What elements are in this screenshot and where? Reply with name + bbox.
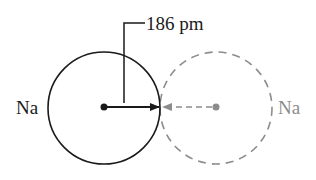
radius-label: 186 pm	[146, 13, 204, 34]
left-atom-nucleus	[101, 104, 108, 111]
left-atom-label: Na	[16, 97, 39, 118]
right-atom-nucleus	[213, 104, 220, 111]
radius-leader-line	[124, 23, 145, 103]
atomic-radius-diagram: 186 pm Na Na	[0, 0, 316, 180]
right-atom-label: Na	[278, 97, 301, 118]
